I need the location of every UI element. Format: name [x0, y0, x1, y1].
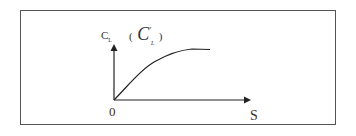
chart-canvas	[0, 0, 356, 136]
paren-close: )	[159, 30, 163, 42]
y-alt-sub: L	[151, 40, 154, 46]
y-alt-prime: '	[149, 26, 151, 35]
y-axis-label-alt: ( C'L )	[129, 24, 162, 46]
x-axis-arrow-icon	[244, 97, 251, 104]
origin-label: 0	[109, 104, 116, 120]
y-alt-main: C	[137, 24, 149, 44]
x-axis-label: S	[250, 108, 258, 124]
paren-open: (	[129, 30, 133, 42]
y-axis-label: CL	[101, 29, 112, 43]
y-axis-arrow-icon	[111, 44, 118, 51]
y-label-sub: L	[108, 37, 112, 43]
cl-curve	[114, 49, 210, 100]
